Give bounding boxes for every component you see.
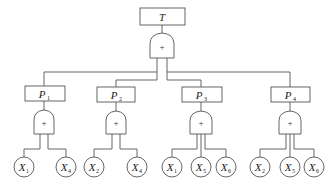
or-gate-p2: + [106, 111, 126, 134]
basic-event-x6: X 6 [304, 157, 324, 177]
basic-event-x5: X 5 [280, 157, 300, 177]
or-gate-p4: + [279, 111, 301, 134]
basic-event-x4: X 4 [56, 157, 76, 177]
svg-text:6: 6 [316, 168, 319, 174]
basic-event-x1: X 1 [14, 157, 34, 177]
svg-text:P: P [38, 88, 46, 100]
event-p3: P 3 [182, 87, 222, 102]
basic-event-x5: X 5 [191, 157, 211, 177]
svg-text:P: P [110, 89, 118, 101]
svg-text:2: 2 [119, 96, 122, 102]
svg-text:+: + [113, 118, 118, 128]
basic-event-x2: X 2 [84, 157, 104, 177]
svg-text:+: + [41, 118, 46, 128]
svg-text:4: 4 [139, 168, 142, 174]
svg-text:4: 4 [293, 96, 296, 102]
svg-text:P: P [284, 89, 292, 101]
basic-event-x2: X 2 [250, 157, 270, 177]
top-event-label: T [159, 11, 166, 23]
svg-text:+: + [198, 118, 203, 128]
svg-text:3: 3 [204, 96, 207, 102]
svg-text:2: 2 [96, 168, 99, 174]
svg-text:P: P [195, 89, 203, 101]
svg-text:1: 1 [174, 168, 177, 174]
or-gate-symbol: + [159, 42, 164, 52]
svg-text:4: 4 [68, 168, 71, 174]
event-p1: P 1 [25, 86, 65, 101]
or-gate-p1: + [34, 110, 54, 134]
event-p2: P 2 [97, 87, 135, 102]
or-gate-p3: + [190, 111, 212, 134]
basic-event-x1: X 1 [162, 157, 182, 177]
basic-event-x6: X 6 [216, 157, 236, 177]
svg-text:1: 1 [26, 168, 29, 174]
svg-text:5: 5 [292, 168, 295, 174]
top-or-gate: + [150, 33, 174, 58]
fault-tree-diagram: T + P 1 + X 1 X 4 P 2 [0, 0, 332, 188]
svg-text:6: 6 [228, 168, 231, 174]
svg-text:2: 2 [262, 168, 265, 174]
svg-text:+: + [287, 118, 292, 128]
top-event-node: T [140, 8, 185, 25]
svg-text:1: 1 [47, 95, 50, 101]
event-p4: P 4 [271, 87, 310, 102]
basic-event-x4: X 4 [127, 157, 147, 177]
svg-text:5: 5 [203, 168, 206, 174]
